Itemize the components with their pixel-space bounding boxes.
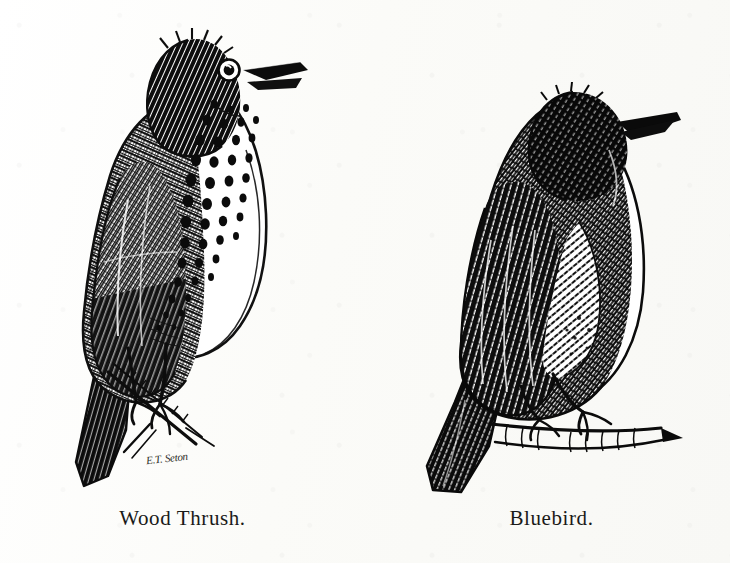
caption-bluebird: Bluebird.	[365, 506, 730, 531]
caption-wood-thrush: Wood Thrush.	[0, 506, 365, 531]
wood-thrush-body	[60, 28, 308, 500]
bluebird-illustration	[365, 0, 730, 500]
thrush-eye	[219, 60, 240, 81]
bluebird-body	[415, 80, 683, 500]
figure-wood-thrush: E.T. Seton Wood Thrush.	[0, 0, 365, 563]
bird-plate: E.T. Seton Wood Thrush.	[0, 0, 730, 563]
bluebird-beak	[617, 112, 681, 140]
thrush-beak	[243, 62, 308, 90]
figure-bluebird: Bluebird.	[365, 0, 730, 563]
wood-thrush-illustration	[0, 0, 365, 500]
